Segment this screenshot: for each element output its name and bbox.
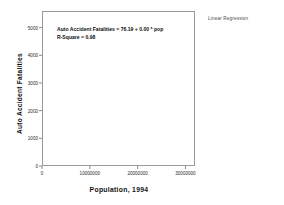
y-tick-label: 5000 bbox=[8, 25, 38, 30]
x-axis-title: Population, 1994 bbox=[42, 186, 196, 193]
r-square-text: R-Square = 0.98 bbox=[57, 33, 163, 41]
x-tick-label: 30000000 bbox=[175, 171, 195, 176]
chart-legend-label: Linear Regression bbox=[208, 16, 248, 21]
regression-annotation: Auto Accident Fatalities = 76.19 + 0.00 … bbox=[57, 25, 163, 41]
y-tick-label: 4000 bbox=[8, 53, 38, 58]
x-tick-label: 20000000 bbox=[127, 171, 147, 176]
regression-equation-text: Auto Accident Fatalities = 76.19 + 0.00 … bbox=[57, 25, 163, 33]
x-tick-label: 0 bbox=[41, 171, 44, 176]
y-tick-label: 0 bbox=[8, 164, 38, 169]
y-tick-label: 3000 bbox=[8, 80, 38, 85]
linear-regression-chart: Linear Regression Auto Accident Fataliti… bbox=[0, 0, 284, 205]
x-tick-label: 10000000 bbox=[80, 171, 100, 176]
y-tick-label: 2000 bbox=[8, 108, 38, 113]
y-tick-label: 1000 bbox=[8, 136, 38, 141]
